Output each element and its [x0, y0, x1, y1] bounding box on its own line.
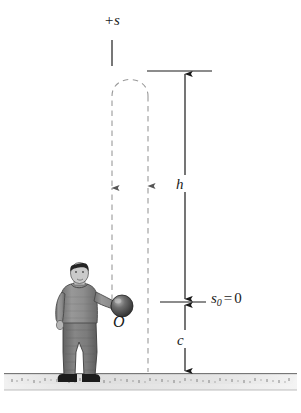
label-height-h: h [176, 177, 184, 192]
ground-surface [4, 374, 297, 390]
diagram-lines-layer [0, 0, 301, 413]
hand-left [56, 320, 63, 329]
label-s-zero-equals-zero: s0=0 [211, 291, 242, 308]
label-s-zero-equals: = [222, 290, 234, 306]
label-height-c: c [177, 333, 184, 348]
label-positive-s: +s [104, 13, 120, 28]
physics-diagram: +s h c O s0=0 [0, 0, 301, 413]
trajectory-apex-curve [112, 80, 148, 97]
label-s-zero-value: 0 [234, 290, 242, 306]
person-figure [56, 263, 120, 383]
shoe-left [58, 374, 77, 382]
label-origin-o: O [113, 314, 125, 330]
shoe-right [82, 374, 100, 382]
